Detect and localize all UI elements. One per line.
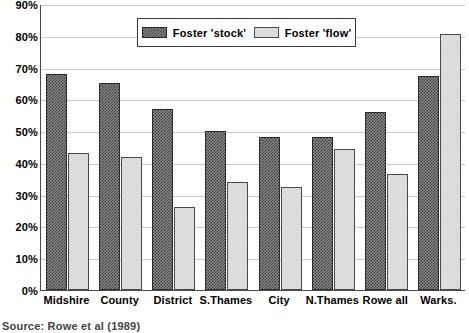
bar-group <box>418 5 461 290</box>
bar-flow <box>440 34 461 290</box>
y-axis-tick-label: 30% <box>2 191 38 202</box>
bar-group <box>99 5 142 290</box>
bar-flow <box>121 157 142 290</box>
chart-legend: Foster 'stock' Foster 'flow' <box>137 18 356 47</box>
bar-stock <box>259 137 280 290</box>
bar-flow <box>387 174 408 290</box>
x-axis-tick-label: Rowe all <box>359 294 412 306</box>
plot-area <box>40 5 465 291</box>
bar-group <box>152 5 195 290</box>
x-axis-tick-label: Warks. <box>412 294 465 306</box>
y-axis-tick-label: 0% <box>2 286 38 297</box>
bar-group <box>365 5 408 290</box>
x-axis-tick-label: N.Thames <box>306 294 359 306</box>
y-axis-tick-label: 50% <box>2 127 38 138</box>
bar-flow <box>174 207 195 290</box>
legend-entry-flow: Foster 'flow' <box>254 27 352 39</box>
bar-flow <box>227 182 248 290</box>
y-axis-tick-label: 20% <box>2 222 38 233</box>
bar-stock <box>418 76 439 291</box>
x-axis-tick-label: Midshire <box>40 294 93 306</box>
bar-group <box>205 5 248 290</box>
y-axis-tick-label: 40% <box>2 159 38 170</box>
y-axis-tick-label: 80% <box>2 32 38 43</box>
light-gray-swatch-icon <box>254 27 279 38</box>
bar-group <box>46 5 89 290</box>
bar-flow <box>68 153 89 290</box>
bar-chart: 90%80%70%60%50%40%30%20%10%0% Foster 'st… <box>0 0 469 333</box>
bar-flow <box>281 187 302 290</box>
y-axis-tick-label: 60% <box>2 95 38 106</box>
source-note: Source: Rowe et al (1989) <box>2 320 140 332</box>
dark-checker-swatch-icon <box>142 27 167 38</box>
x-axis: MidshireCountyDistrictS.ThamesCityN.Tham… <box>40 294 465 312</box>
x-axis-tick-label: S.Thames <box>199 294 252 306</box>
bars-layer <box>41 5 465 290</box>
legend-entry-stock: Foster 'stock' <box>142 27 246 39</box>
x-axis-tick-label: District <box>146 294 199 306</box>
bar-group <box>312 5 355 290</box>
bar-group <box>259 5 302 290</box>
x-axis-tick-label: County <box>93 294 146 306</box>
bar-stock <box>46 74 67 290</box>
y-axis-tick-label: 90% <box>2 0 38 11</box>
bar-stock <box>152 109 173 290</box>
y-axis-tick-label: 10% <box>2 254 38 265</box>
y-axis: 90%80%70%60%50%40%30%20%10%0% <box>0 0 38 333</box>
bar-stock <box>99 83 120 290</box>
legend-label-flow: Foster 'flow' <box>285 27 352 39</box>
bar-flow <box>334 149 355 290</box>
bar-stock <box>365 112 386 290</box>
bar-stock <box>312 137 333 290</box>
bar-stock <box>205 131 226 290</box>
x-axis-tick-label: City <box>253 294 306 306</box>
y-axis-tick-label: 70% <box>2 64 38 75</box>
legend-label-stock: Foster 'stock' <box>173 27 246 39</box>
